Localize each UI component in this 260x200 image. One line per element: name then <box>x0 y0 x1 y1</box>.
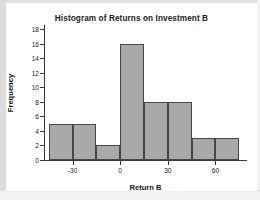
y-tick-mark <box>40 44 44 45</box>
y-tick-label: 0 <box>35 157 39 164</box>
y-tick-mark <box>40 102 44 103</box>
x-tick-mark <box>73 161 74 165</box>
histogram-bar <box>96 145 120 160</box>
y-tick-mark <box>40 145 44 146</box>
x-axis-line <box>44 160 247 161</box>
chart-canvas: Histogram of Returns on Investment B 024… <box>6 3 257 191</box>
histogram-bar <box>215 138 239 160</box>
y-tick-mark <box>40 29 44 30</box>
histogram-bar <box>144 102 168 160</box>
y-axis-title: Frequency <box>6 74 15 112</box>
y-tick-label: 16 <box>32 40 39 47</box>
frame-right-edge <box>257 0 260 200</box>
x-axis-title: Return B <box>44 183 247 192</box>
y-tick-mark <box>40 160 44 161</box>
y-tick-mark <box>40 87 44 88</box>
chart-title: Histogram of Returns on Investment B <box>6 14 257 23</box>
x-tick-label: 60 <box>212 167 219 174</box>
y-tick-mark <box>40 116 44 117</box>
y-tick-label: 4 <box>35 127 39 134</box>
x-tick-label: 0 <box>118 167 122 174</box>
y-axis-line <box>44 25 45 161</box>
x-tick-mark <box>215 161 216 165</box>
y-tick-label: 2 <box>35 142 39 149</box>
x-tick-label: 30 <box>164 167 171 174</box>
y-tick-label: 18 <box>32 26 39 33</box>
x-tick-mark <box>120 161 121 165</box>
x-tick-mark <box>168 161 169 165</box>
plot-area: 024681012141618 -3003060 Frequency Retur… <box>44 25 244 161</box>
histogram-bar <box>73 124 97 160</box>
y-tick-label: 12 <box>32 69 39 76</box>
y-tick-label: 14 <box>32 55 39 62</box>
y-tick-mark <box>40 131 44 132</box>
y-tick-mark <box>40 58 44 59</box>
y-tick-label: 8 <box>35 98 39 105</box>
histogram-bar <box>168 102 192 160</box>
y-tick-label: 6 <box>35 113 39 120</box>
histogram-bar <box>120 44 144 160</box>
histogram-bar <box>192 138 216 160</box>
x-tick-label: -30 <box>68 167 78 174</box>
y-tick-mark <box>40 73 44 74</box>
histogram-bar <box>49 124 73 160</box>
y-tick-label: 10 <box>32 84 39 91</box>
histogram-screenshot: Histogram of Returns on Investment B 024… <box>0 0 260 200</box>
